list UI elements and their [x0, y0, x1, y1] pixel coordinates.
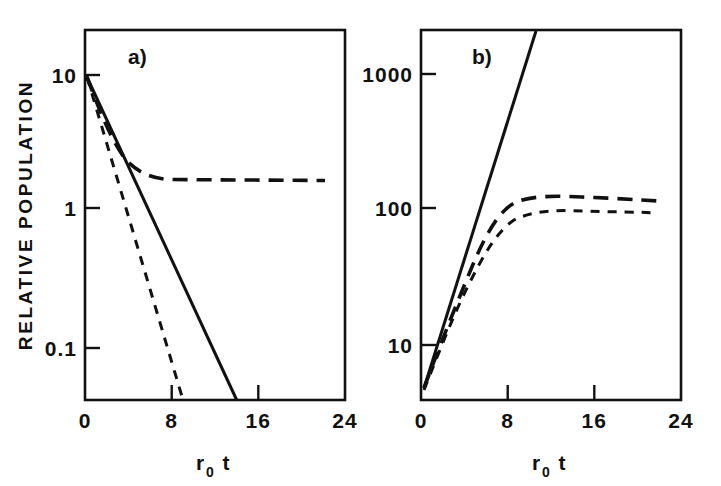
panel-b-curve-short-dashed	[424, 211, 658, 390]
panel-a-x-axis-title-r: r	[196, 451, 204, 474]
panel-a-label: a)	[128, 45, 147, 68]
panel-b-label: b)	[472, 45, 492, 68]
panel-b-x-axis-title: r 0 t	[532, 451, 566, 480]
panel-a-xlabel-16: 16	[246, 409, 271, 432]
panel-a-curve-short-dashed	[87, 77, 183, 400]
panel-b-xlabel-24: 24	[668, 409, 693, 432]
panel-a-ylabel-10: 10	[52, 64, 77, 87]
panel-b-ylabel-10: 10	[388, 334, 413, 357]
y-axis-title-text: RELATIVE POPULATION	[15, 80, 36, 350]
panel-b-x-axis-title-t: t	[559, 451, 566, 474]
panel-a-xlabel-24: 24	[332, 409, 357, 432]
panel-a-x-axis-title-t: t	[223, 451, 230, 474]
panel-b-ylabel-100: 100	[375, 197, 413, 220]
panel-b-xlabel-0: 0	[415, 409, 428, 432]
figure-container: RELATIVE POPULATION a) 10 1 0.1 0 8 16 2…	[0, 0, 721, 486]
panel-b-curve-long-dashed	[424, 196, 658, 388]
panel-a-ylabel-1: 1	[64, 197, 77, 220]
y-axis-title: RELATIVE POPULATION	[15, 80, 36, 350]
panel-b-xlabel-16: 16	[582, 409, 607, 432]
panel-b-curve-solid	[424, 31, 536, 388]
panel-a-frame	[85, 30, 345, 400]
panel-a-curve-solid	[86, 75, 237, 400]
panel-a-xlabel-0: 0	[79, 409, 92, 432]
panel-b-frame	[421, 30, 681, 400]
panel-a: a) 10 1 0.1 0 8 16 24 r 0 t	[45, 30, 358, 480]
panel-b-x-axis-title-r: r	[532, 451, 540, 474]
panel-a-x-axis-title: r 0 t	[196, 451, 230, 480]
panel-b-xlabel-8: 8	[501, 409, 514, 432]
panel-b: b) 1000 100 10 0 8 16 24 r 0 t	[362, 30, 693, 480]
panel-a-curve-long-dashed	[87, 77, 325, 181]
panel-a-ylabel-0.1: 0.1	[45, 337, 77, 360]
panel-a-x-axis-title-sub: 0	[206, 464, 214, 480]
panel-b-x-axis-title-sub: 0	[542, 464, 550, 480]
figure-svg: RELATIVE POPULATION a) 10 1 0.1 0 8 16 2…	[0, 0, 721, 486]
panel-a-xlabel-8: 8	[165, 409, 178, 432]
panel-b-ylabel-1000: 1000	[362, 63, 413, 86]
